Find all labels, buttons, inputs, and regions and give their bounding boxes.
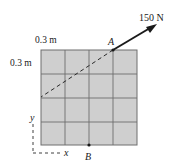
- force-arrow-shaft: [113, 28, 150, 50]
- point-b: [87, 143, 90, 146]
- y-axis-label: y: [29, 112, 35, 123]
- point-a-label: A: [107, 36, 115, 47]
- x-axis-label: x: [63, 147, 69, 158]
- force-arrow-head-icon: [146, 24, 157, 33]
- vertical-spacing-label: 0.3 m: [10, 58, 32, 68]
- plate-diagram: 150 N A B 0.3 m 0.3 m x y: [0, 0, 176, 165]
- point-b-label: B: [85, 151, 91, 162]
- force-label: 150 N: [139, 12, 164, 23]
- point-a: [111, 48, 114, 51]
- horizontal-spacing-label: 0.3 m: [35, 35, 57, 45]
